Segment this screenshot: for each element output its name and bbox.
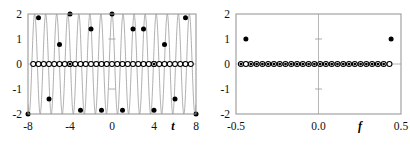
data-point-filled: [99, 108, 104, 113]
data-point-core: [240, 63, 243, 66]
data-point-core: [377, 63, 380, 66]
x-tick-label: 0.5: [394, 120, 409, 132]
data-point-open: [89, 62, 94, 67]
series-zero-level-filled-in-circles: [238, 62, 386, 67]
data-point-core: [153, 63, 156, 66]
y-tick-label: -1: [12, 83, 22, 95]
data-point-filled: [141, 27, 146, 32]
y-axis-labels: -2-1012: [220, 8, 230, 120]
data-point-open: [110, 62, 115, 67]
data-point-open: [146, 62, 151, 67]
data-point-core: [307, 63, 310, 66]
data-point-open: [188, 62, 193, 67]
data-point-open: [243, 62, 248, 67]
y-tick-label: 0: [224, 58, 230, 70]
data-point-core: [359, 63, 362, 66]
data-point-core: [261, 63, 264, 66]
data-point-open: [167, 62, 172, 67]
data-point-open: [178, 62, 183, 67]
data-point-filled: [47, 97, 52, 102]
data-point-open: [47, 62, 52, 67]
data-point-core: [330, 63, 333, 66]
data-point-filled: [120, 108, 125, 113]
y-tick-label: -2: [12, 108, 22, 120]
data-point-open: [62, 62, 67, 67]
data-point-filled: [78, 108, 83, 113]
data-point-filled: [57, 42, 62, 47]
y-tick-label: 1: [224, 33, 230, 45]
data-point-filled: [152, 108, 157, 113]
y-tick-label: 0: [16, 58, 22, 70]
y-tick-label: 1: [16, 33, 22, 45]
data-point-filled: [89, 27, 94, 32]
data-point-core: [290, 63, 293, 66]
data-point-open: [120, 62, 125, 67]
x-axis-title: t: [171, 119, 175, 133]
data-point-filled: [243, 37, 248, 42]
x-axis-labels: -0.50.00.5: [227, 120, 409, 132]
data-point-open: [387, 62, 392, 67]
x-tick-label: 0.0: [311, 120, 326, 132]
x-tick-label: -0.5: [227, 120, 245, 132]
data-point-core: [273, 63, 276, 66]
data-point-core: [365, 63, 368, 66]
data-point-open: [162, 62, 167, 67]
data-point-open: [36, 62, 41, 67]
data-point-core: [313, 63, 316, 66]
y-tick-label: -1: [220, 83, 230, 95]
data-point-open: [31, 62, 36, 67]
x-tick-label: 0: [109, 120, 115, 132]
x-tick-label: 8: [193, 120, 199, 132]
series-zero-level-open-circles: [31, 62, 194, 67]
x-tick-label: -4: [65, 120, 75, 132]
data-point-core: [325, 63, 328, 66]
data-point-open: [157, 62, 162, 67]
data-point-core: [336, 63, 339, 66]
y-tick-label: 2: [16, 8, 22, 20]
data-point-open: [73, 62, 78, 67]
data-point-open: [136, 62, 141, 67]
time-domain-plot: -2-1012-8-4048t: [0, 0, 205, 145]
data-point-core: [319, 63, 322, 66]
data-point-core: [382, 63, 385, 66]
data-point-core: [69, 63, 72, 66]
data-point-open: [52, 62, 57, 67]
panel-frequency-domain: -2-1012-0.50.00.5f: [205, 0, 410, 145]
data-point-core: [301, 63, 304, 66]
data-point-filled: [36, 15, 41, 20]
data-point-core: [267, 63, 270, 66]
data-point-open: [183, 62, 188, 67]
data-point-core: [278, 63, 281, 66]
data-point-filled: [389, 37, 394, 42]
panel-time-domain: -2-1012-8-4048t: [0, 0, 205, 145]
y-tick-label: 2: [224, 8, 230, 20]
data-point-core: [255, 63, 258, 66]
y-axis-labels: -2-1012: [12, 8, 22, 120]
figure-root: -2-1012-8-4048t -2-1012-0.50.00.5f: [0, 0, 410, 145]
x-tick-label: 4: [151, 120, 157, 132]
data-point-open: [125, 62, 130, 67]
data-point-core: [348, 63, 351, 66]
data-point-filled: [162, 42, 167, 47]
data-point-filled: [173, 97, 178, 102]
data-point-core: [296, 63, 299, 66]
y-tick-label: -2: [220, 108, 230, 120]
data-point-open: [173, 62, 178, 67]
data-point-open: [99, 62, 104, 67]
data-point-open: [78, 62, 83, 67]
data-point-open: [94, 62, 99, 67]
data-point-core: [342, 63, 345, 66]
data-point-open: [115, 62, 120, 67]
data-point-core: [249, 63, 252, 66]
data-point-open: [131, 62, 136, 67]
data-point-filled: [131, 27, 136, 32]
data-point-filled: [183, 15, 188, 20]
frequency-domain-plot: -2-1012-0.50.00.5f: [205, 0, 410, 145]
data-point-core: [353, 63, 356, 66]
data-point-core: [284, 63, 287, 66]
data-point-open: [83, 62, 88, 67]
data-point-open: [57, 62, 62, 67]
data-point-core: [371, 63, 374, 66]
x-tick-label: -8: [23, 120, 33, 132]
data-point-open: [104, 62, 109, 67]
